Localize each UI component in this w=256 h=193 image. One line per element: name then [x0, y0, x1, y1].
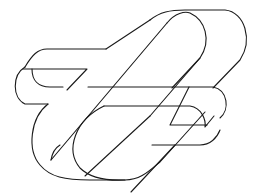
diagonal-strand-1	[51, 23, 167, 160]
figure-strokes	[15, 10, 246, 192]
lower-band-horizontal	[152, 130, 220, 145]
lower-left-curve	[32, 104, 125, 180]
lower-right-stub	[131, 145, 175, 192]
left-outer-loop	[15, 67, 48, 104]
upper-left-band-top	[25, 49, 106, 67]
top-band-inner-loop	[167, 12, 206, 88]
top-band-outer-edge	[150, 10, 246, 88]
lower-band-diagonal	[85, 116, 150, 176]
impossible-figure	[0, 0, 256, 193]
diagram-canvas: Interlocking impossible ribbon figure	[0, 0, 256, 193]
middle-band-lower	[104, 106, 214, 127]
left-inner-loop	[32, 69, 63, 87]
top-band-left-diagonal	[106, 20, 150, 49]
